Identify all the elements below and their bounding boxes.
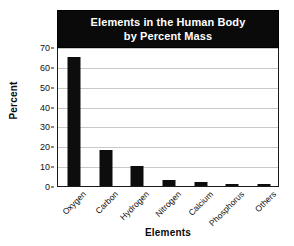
x-axis-tick: Others xyxy=(253,189,278,214)
x-axis-tick: Calcium xyxy=(186,189,215,218)
bar-slot xyxy=(121,48,153,186)
y-axis-tick-mark xyxy=(51,187,54,188)
y-axis-tick: 50 xyxy=(40,83,50,93)
y-axis-tick-mark xyxy=(51,127,54,128)
y-axis-label: Percent xyxy=(8,66,19,136)
bar xyxy=(226,184,239,186)
chart-figure: Elements in the Human Body by Percent Ma… xyxy=(0,0,294,246)
bar xyxy=(258,184,271,186)
y-axis-tick: 40 xyxy=(40,103,50,113)
y-axis-tick: 20 xyxy=(40,142,50,152)
y-axis-tick-mark xyxy=(51,87,54,88)
y-axis-tick-mark xyxy=(51,48,54,49)
y-axis-tick: 60 xyxy=(40,63,50,73)
chart-title-line-2: by Percent Mass xyxy=(124,29,212,43)
x-axis-tick-labels: OxygenCarbonHydrogenNitrogenCalciumPhosp… xyxy=(57,187,279,229)
bar-slot xyxy=(185,48,217,186)
x-axis-tick: Oxygen xyxy=(60,189,88,217)
x-axis-tick: Hydrogen xyxy=(118,189,151,222)
x-axis-tick: Nitrogen xyxy=(153,189,183,219)
plot-frame xyxy=(57,48,279,187)
bar-slot xyxy=(217,48,249,186)
bar-slot xyxy=(58,48,90,186)
y-axis-tick: 30 xyxy=(40,122,50,132)
bar xyxy=(131,166,144,186)
chart-title-line-1: Elements in the Human Body xyxy=(91,15,246,29)
bar-slot xyxy=(153,48,185,186)
y-axis-tick-mark xyxy=(51,167,54,168)
x-axis-tick: Carbon xyxy=(93,189,120,216)
y-axis-tick-mark xyxy=(51,67,54,68)
bar-slot xyxy=(90,48,122,186)
bar xyxy=(67,57,80,186)
bars-layer xyxy=(58,48,278,186)
y-axis-tick-labels: 010203040506070 xyxy=(26,48,54,187)
bar xyxy=(194,182,207,186)
y-axis-tick-mark xyxy=(51,107,54,108)
y-axis-tick: 10 xyxy=(40,162,50,172)
bar xyxy=(99,150,112,186)
chart-title-banner: Elements in the Human Body by Percent Ma… xyxy=(57,10,279,48)
bar xyxy=(162,180,175,186)
x-axis-label: Elements xyxy=(57,227,279,238)
y-axis-tick: 0 xyxy=(45,182,50,192)
y-axis-tick-mark xyxy=(51,147,54,148)
bar-slot xyxy=(248,48,280,186)
y-axis-tick: 70 xyxy=(40,43,50,53)
